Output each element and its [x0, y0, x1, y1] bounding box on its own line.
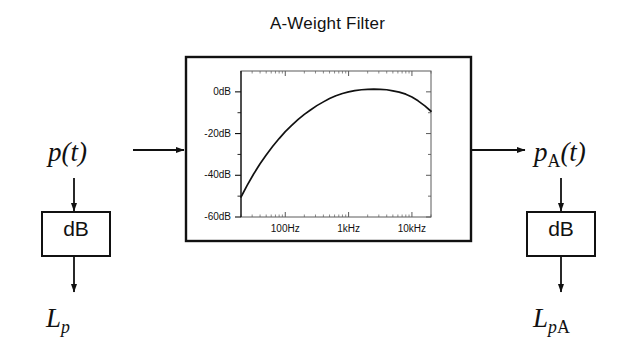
y-tick-label: 0dB — [191, 86, 231, 97]
input-signal-base: p — [48, 137, 62, 167]
output-level-subscript-p: p — [548, 317, 557, 337]
x-tick-label: 10kHz — [390, 223, 434, 234]
filter-title: A-Weight Filter — [185, 14, 470, 34]
db-block-right-label: dB — [527, 217, 595, 241]
output-signal-arg: (t) — [560, 137, 585, 167]
input-signal-label: p(t) — [48, 137, 87, 168]
output-level-base: L — [533, 303, 548, 333]
input-signal-arg: (t) — [62, 137, 87, 167]
input-level-base: L — [46, 303, 61, 333]
y-tick-label: -60dB — [191, 211, 231, 222]
output-signal-label: pA(t) — [534, 137, 586, 172]
input-level-subscript: p — [61, 317, 70, 337]
y-tick-label: -40dB — [191, 169, 231, 180]
diagram-canvas: A-Weight Filter p(t) pA(t) Lp LpA dB dB … — [0, 0, 642, 353]
y-tick-label: -20dB — [191, 128, 231, 139]
output-signal-base: p — [534, 137, 548, 167]
input-level-label: Lp — [46, 303, 70, 338]
output-signal-subscript: A — [548, 151, 561, 171]
output-level-subscript-a: A — [557, 317, 570, 337]
block-diagram — [0, 0, 642, 353]
output-level-label: LpA — [533, 303, 570, 338]
x-tick-label: 1kHz — [327, 223, 371, 234]
db-block-left-label: dB — [42, 217, 110, 241]
x-tick-label: 100Hz — [263, 223, 307, 234]
